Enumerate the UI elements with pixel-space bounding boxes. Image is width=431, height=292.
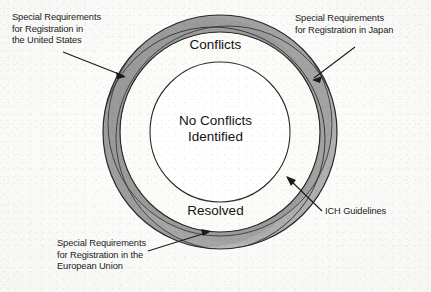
callout-european-union: Special Requirements for Registration in… xyxy=(57,238,146,273)
figure-canvas: Conflicts Resolved No Conflicts Identifi… xyxy=(0,0,431,292)
callout-ich-guidelines: ICH Guidelines xyxy=(325,206,386,218)
callout-united-states: Special Requirements for Registration in… xyxy=(12,12,101,47)
callout-japan: Special Requirements for Registration in… xyxy=(295,13,393,36)
center-label: No Conflicts Identified xyxy=(0,113,431,145)
